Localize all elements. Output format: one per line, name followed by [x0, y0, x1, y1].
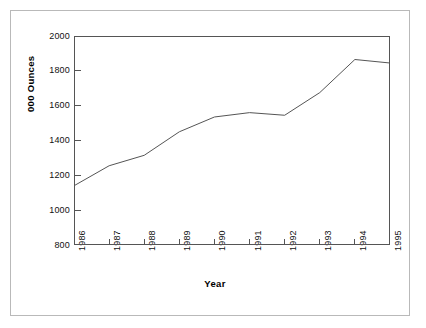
- axes-group: [74, 36, 390, 245]
- x-axis-title-text: Year: [204, 278, 225, 289]
- x-tick-label: 1995: [394, 230, 403, 251]
- chart-canvas: [74, 36, 390, 245]
- plot-area: [74, 36, 390, 245]
- chart-page: 000 Ounces 800100012001400160018002000 1…: [0, 0, 426, 328]
- data-series-line: [74, 60, 390, 186]
- tick-marks-group: [74, 36, 390, 245]
- x-axis-title: Year: [0, 278, 426, 289]
